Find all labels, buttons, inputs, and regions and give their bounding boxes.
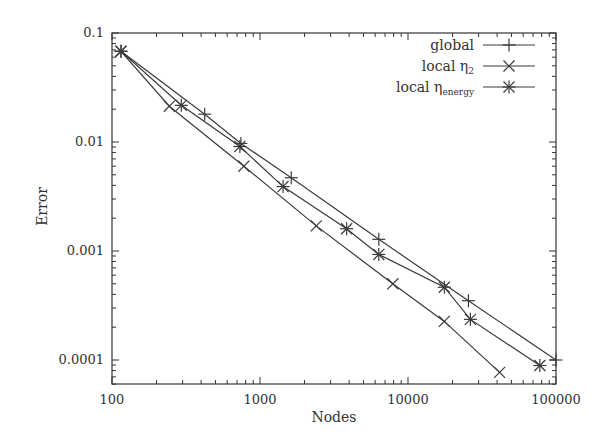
cross-marker-icon [311, 220, 322, 231]
series-plus [114, 45, 562, 367]
chart-canvas: 1001000100001000000.10.010.0010.0001 Nod… [0, 0, 613, 443]
x-tick-label: 100000 [531, 392, 581, 407]
tick-labels: 1001000100001000000.10.010.0010.0001 [59, 25, 581, 407]
series-line [121, 51, 500, 372]
star-marker-icon [233, 140, 246, 153]
cross-marker-icon [494, 367, 505, 378]
cross-marker-icon [387, 278, 398, 289]
plus-marker-icon [503, 39, 516, 52]
cross-marker-icon [164, 101, 175, 112]
cross-marker-icon [238, 161, 249, 172]
legend-item: global [430, 37, 535, 53]
series-star [114, 45, 546, 372]
y-tick-label: 0.0001 [59, 352, 105, 367]
x-tick-label: 100 [100, 392, 125, 407]
legend-label: local η2 [422, 58, 474, 76]
star-marker-icon [503, 81, 516, 94]
star-marker-icon [114, 45, 127, 58]
y-tick-label: 0.001 [67, 243, 104, 258]
star-marker-icon [464, 313, 477, 326]
star-marker-icon [277, 180, 290, 193]
error-vs-nodes-chart: 1001000100001000000.10.010.0010.0001 Nod… [0, 0, 613, 443]
star-marker-icon [438, 281, 451, 294]
x-axis-label: Nodes [311, 409, 356, 425]
y-tick-label: 0.1 [83, 25, 104, 40]
star-marker-icon [340, 222, 353, 235]
plus-marker-icon [372, 233, 385, 246]
legend-label: local ηenergy [396, 79, 475, 97]
legend: globallocal η2local ηenergy [396, 37, 535, 97]
star-marker-icon [372, 248, 385, 261]
x-tick-label: 1000 [243, 392, 276, 407]
legend-label: global [430, 37, 474, 53]
y-tick-label: 0.01 [75, 134, 104, 149]
series-line [121, 51, 556, 360]
star-marker-icon [533, 359, 546, 372]
cross-marker-icon [439, 316, 450, 327]
plot-series [114, 45, 562, 378]
x-tick-label: 10000 [387, 392, 428, 407]
y-axis-label: Error [34, 187, 50, 226]
legend-item: local ηenergy [396, 79, 535, 97]
plus-marker-icon [462, 294, 475, 307]
star-marker-icon [175, 99, 188, 112]
legend-item: local η2 [422, 58, 535, 76]
